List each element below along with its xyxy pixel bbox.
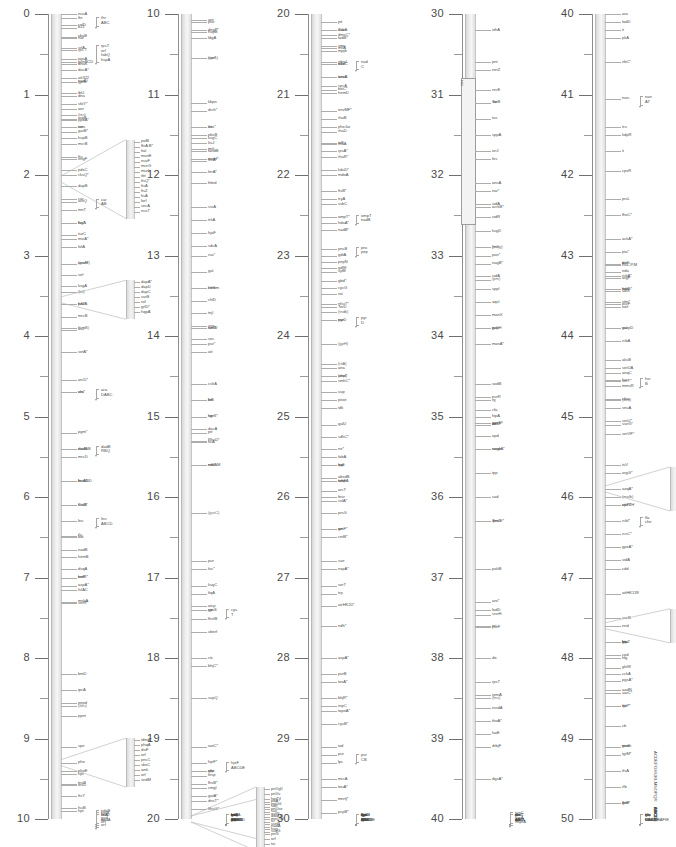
axis-tick-label: 24 — [256, 329, 290, 341]
gene-leader-line — [191, 788, 207, 789]
gene-label: fuc* — [78, 221, 85, 225]
gene-leader-line — [475, 289, 491, 290]
bracket-arrowhead — [225, 618, 227, 620]
gene-label: sad — [492, 495, 498, 499]
bracket-label: RBQ — [101, 449, 110, 453]
gene-leader-line — [475, 256, 491, 257]
axis-tick-major — [449, 578, 462, 579]
axis-line-col1 — [48, 14, 49, 819]
gene-leader-line — [61, 78, 77, 79]
gene-label: bdi — [78, 535, 83, 539]
gene-label: pahB — [492, 567, 501, 571]
gene-leader-line — [191, 58, 207, 59]
gene-leader-line — [321, 561, 337, 562]
gene-leader-line — [191, 352, 207, 353]
linkage-map-figure: 012345678910thrbJJrps TdnaKgprBdnaaerppb… — [0, 0, 676, 847]
gene-leader-line — [61, 115, 77, 116]
gene-leader-line — [191, 809, 207, 810]
gene-leader-line — [605, 473, 621, 474]
gene-label: uidA — [622, 558, 630, 562]
gene-leader-line — [321, 312, 337, 313]
gene-label: purB — [338, 672, 346, 676]
bracket-arrowhead — [95, 208, 97, 210]
axis-tick-major — [165, 14, 178, 15]
gene-leader-line — [61, 304, 77, 305]
gene-leader-line — [61, 64, 77, 65]
axis-tick-label: 3 — [0, 249, 30, 261]
gene-label: tru — [622, 125, 627, 129]
gene-label: bmR* — [78, 575, 88, 579]
gene-leader-line — [605, 265, 621, 266]
gene-leader-line — [191, 272, 207, 273]
bracket-arrowhead — [225, 771, 227, 773]
gene-leader-line — [321, 256, 337, 257]
gene-leader-line — [61, 104, 77, 105]
gene-leader-line — [61, 138, 77, 139]
axis-tick-major — [449, 497, 462, 498]
gene-leader-line — [321, 272, 337, 273]
bracket-label: DABC — [101, 393, 112, 397]
axis-tick-major — [295, 819, 308, 820]
gene-leader-line — [605, 655, 621, 656]
axis-tick-major — [165, 739, 178, 740]
axis-tick-minor — [584, 54, 592, 55]
gene-label: ssbC — [338, 202, 347, 206]
expansion-tick — [134, 142, 140, 143]
gene-label: sef — [78, 273, 83, 277]
gene-label: setA* — [78, 350, 88, 354]
axis-tick-major — [579, 256, 592, 257]
gene-leader-line — [61, 202, 77, 203]
gene-leader-line — [61, 144, 77, 145]
gene-label: (gpH) — [338, 342, 348, 346]
gene-label: fssB — [78, 806, 86, 810]
gene-leader-line — [191, 658, 207, 659]
gene-leader-line — [605, 693, 621, 694]
axis-tick-label: 20 — [126, 812, 160, 824]
gene-leader-line — [321, 111, 337, 112]
axis-tick-label: 26 — [256, 490, 290, 502]
gene-label: cpxY — [622, 503, 631, 507]
gene-label: bhjC* — [208, 664, 218, 668]
gene-leader-line — [605, 381, 621, 382]
axis-tick-major — [295, 739, 308, 740]
gene-label: ftsB* — [338, 189, 346, 193]
axis-tick-minor — [454, 457, 462, 458]
gene-label: aksB — [622, 358, 631, 362]
gene-leader-line — [475, 280, 491, 281]
bracket-top-tick — [640, 378, 643, 379]
gene-leader-line — [321, 425, 337, 426]
bracket-label: ABCD — [101, 522, 112, 526]
gene-label: ompT* — [338, 215, 350, 219]
bracket-arrowhead — [509, 824, 511, 826]
gene-label: argG* — [622, 471, 632, 475]
gene-label: rhaR* — [338, 155, 348, 159]
bracket-top-tick — [640, 96, 643, 97]
gene-label: sodB — [492, 382, 501, 386]
axis-tick-major — [165, 417, 178, 418]
gene-label: bmD — [78, 672, 87, 676]
gene-leader-line — [475, 302, 491, 303]
expansion-bar-exp-che-flag — [670, 467, 676, 511]
gene-label: pnt — [492, 60, 498, 64]
gene-label: aer — [78, 107, 84, 111]
bracket-top-tick — [640, 517, 643, 518]
gene-label: ctc — [208, 656, 213, 660]
gene-label: nerZ — [492, 68, 500, 72]
gene-leader-line — [61, 771, 77, 772]
gene-label: rpmA — [492, 693, 502, 697]
gene-leader-line — [61, 537, 77, 538]
gene-label: fes — [492, 157, 497, 161]
gene-label: sdcA — [208, 244, 217, 248]
bracket-label: nhs — [361, 818, 368, 822]
axis-tick-label: 29 — [256, 732, 290, 744]
gene-leader-line — [191, 801, 207, 802]
gene-leader-line — [191, 22, 207, 23]
gene-label: bkiC* — [338, 87, 348, 91]
bracket-label: rpmA — [515, 818, 525, 822]
gene-leader-line — [475, 436, 491, 437]
gene-label: rhaD — [338, 129, 347, 133]
gene-label: tgtM* — [622, 752, 631, 756]
gene-label: nnd — [622, 624, 629, 628]
gene-leader-line — [321, 191, 337, 192]
axis-tick-major — [35, 819, 48, 820]
